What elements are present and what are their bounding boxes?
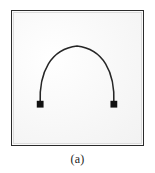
figure-frame-border: [11, 10, 144, 146]
left-support-marker: [37, 101, 44, 108]
figure-frame-inner-rule: [13, 12, 142, 144]
figure-panel-root: (a): [0, 0, 155, 173]
right-support-marker: [110, 101, 117, 108]
figure-caption: (a): [0, 151, 155, 167]
figure-drawing-canvas: [14, 13, 141, 143]
elastica-arch-curve: [40, 46, 114, 104]
